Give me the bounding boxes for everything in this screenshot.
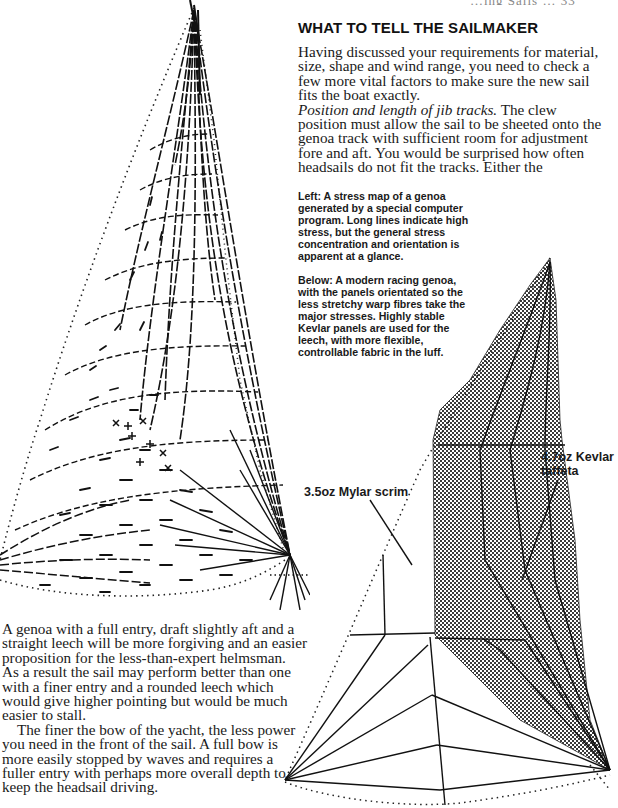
stress-map-figure: [0, 0, 310, 610]
caption-line: major stresses. Highly stable: [298, 310, 508, 322]
intro-paragraph: Having discussed your requirements for m…: [298, 45, 618, 175]
bottom-paragraphs: A genoa with a full entry, draft slightl…: [2, 622, 292, 795]
text-line: keep the headsail driving.: [2, 780, 292, 794]
label-kevlar-taffeta: 4.7oz Kevlar taffeta: [541, 450, 614, 478]
paragraph-full-entry: A genoa with a full entry, draft slightl…: [2, 622, 292, 723]
caption-line: generated by a special computer: [298, 202, 508, 214]
caption-line: with the panels orientated so the: [298, 286, 508, 298]
caption-line: less stretchy warp fibres take the: [298, 298, 508, 310]
caption-line: Kevlar panels are used for the: [298, 322, 508, 334]
text-line: headsails do not fit the tracks. Either …: [298, 160, 618, 174]
figure-captions: Left: A stress map of a genoa generated …: [298, 190, 508, 370]
caption-line: leech, with more flexible,: [298, 334, 508, 346]
paragraph-bow: The finer the bow of the yacht, the less…: [2, 723, 292, 795]
running-head: …ing Sails … 33: [470, 0, 614, 5]
label-line: taffeta: [541, 464, 614, 478]
caption-line: program. Long lines indicate high: [298, 214, 508, 226]
luff-line: [0, 8, 194, 560]
caption-line: controllable fabric in the luff.: [298, 346, 508, 358]
label-mylar-scrim: 3.5oz Mylar scrim: [304, 485, 408, 499]
caption-line: apparent at a glance.: [298, 250, 508, 262]
label-line: 4.7oz Kevlar: [541, 450, 614, 464]
caption-line: stress, but the general stress: [298, 226, 508, 238]
caption-line: concentration and orientation is: [298, 238, 508, 250]
caption-line: Below: A modern racing genoa,: [298, 274, 508, 286]
caption-line: Left: A stress map of a genoa: [298, 190, 508, 202]
caption-left: Left: A stress map of a genoa generated …: [298, 190, 508, 262]
caption-below: Below: A modern racing genoa, with the p…: [298, 274, 508, 358]
section-heading: WHAT TO TELL THE SAILMAKER: [298, 19, 538, 36]
